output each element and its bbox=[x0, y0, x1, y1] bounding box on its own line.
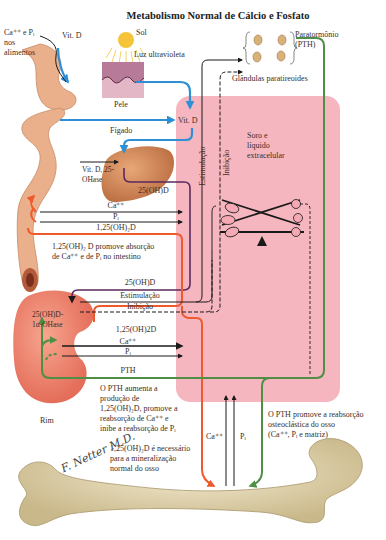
intestine-note-line1: 1,25(OH)₂ D promove absorção bbox=[52, 242, 154, 252]
kidney-calcitriol-label: 1,25(OH)2D bbox=[100, 325, 172, 335]
ecf-vitd-label: Vit. D bbox=[178, 116, 198, 126]
bone-pi-label: Pᵢ bbox=[240, 432, 246, 442]
kidney-note-line3: 1,25(OH)₂D, promove a bbox=[100, 404, 177, 414]
liver-25ohd-label: 25(OH)D bbox=[138, 186, 169, 196]
kidney-note: O PTH aumenta a produção de 1,25(OH)₂D, … bbox=[100, 384, 177, 434]
bone-min-note-line2: para a mineralização bbox=[110, 454, 190, 464]
kidney-pi-label: Pᵢ bbox=[108, 347, 148, 357]
kidney-enzyme-line1: 25(OH)D- bbox=[32, 310, 63, 320]
liver-enzyme-line2: OHase bbox=[82, 175, 114, 185]
bone-ca-label: Ca⁺⁺ bbox=[206, 432, 223, 442]
intestine-pi-label: Pᵢ bbox=[96, 212, 136, 222]
uv-label: Luz ultravioleta bbox=[134, 50, 185, 60]
intestine-calcitriol-label: 1,25(OH)₂D bbox=[80, 223, 152, 233]
ecf-label-line1: Soro e bbox=[247, 131, 285, 141]
sun-label: Sol bbox=[136, 28, 147, 38]
inhibition-vertical-label: Inibição bbox=[222, 150, 232, 176]
diet-label-line2: nos bbox=[4, 38, 35, 48]
diet-label: Ca⁺⁺ e Pᵢ nos alimentos bbox=[4, 28, 35, 58]
pth-label-line2: (PTH) bbox=[295, 40, 339, 50]
skin-label: Pele bbox=[114, 100, 128, 110]
kidney-note-line1: O PTH aumenta a bbox=[100, 384, 177, 394]
ecf-label: Soro e líquido extracelular bbox=[247, 131, 285, 161]
diet-label-line3: alimentos bbox=[4, 48, 35, 58]
kidney-note-line2: produção de bbox=[100, 394, 177, 404]
liver-label: Fígado bbox=[110, 126, 132, 136]
kidney-icon bbox=[13, 290, 93, 403]
kidney-enzyme-line2: 1α-OHase bbox=[32, 320, 63, 330]
ecf-label-line3: extracelular bbox=[247, 151, 285, 161]
bone-pth-note: O PTH promove a reabsorção osteoclástica… bbox=[268, 410, 364, 440]
kidney-note-line4: reabsorção de Ca⁺⁺ e bbox=[100, 414, 177, 424]
bone-pth-note-line3: (Ca⁺⁺, Pᵢ e matriz) bbox=[268, 430, 364, 440]
vitd-oral-label: Vit. D bbox=[62, 31, 82, 41]
kidney-stim-label: Estimulação bbox=[108, 291, 172, 301]
bone-pth-note-line1: O PTH promove a reabsorção bbox=[268, 410, 364, 420]
page-title: Metabolismo Normal de Cálcio e Fosfato bbox=[0, 10, 386, 21]
kidney-inhib-label: Inibição bbox=[108, 302, 172, 312]
skin-icon bbox=[102, 62, 144, 98]
parathyroid-label: Glândulas paratireoides bbox=[232, 74, 308, 84]
kidney-25ohd-label: 25(OH)D bbox=[110, 278, 170, 288]
bone-min-note-line3: normal do osso bbox=[110, 464, 190, 474]
kidney-enzyme-label: 25(OH)D- 1α-OHase bbox=[32, 310, 63, 329]
bone-pth-note-line2: osteoclástica do osso bbox=[268, 420, 364, 430]
liver-enzyme-line1: Vit. D, 25- bbox=[82, 165, 114, 175]
diet-label-line1: Ca⁺⁺ e Pᵢ bbox=[4, 28, 35, 38]
ecf-label-line2: líquido bbox=[247, 141, 285, 151]
intestine-note-line2: de Ca⁺⁺ e de Pᵢ no intestino bbox=[52, 252, 154, 262]
bone-min-note: 1,25(OH)₂D é necessário para a mineraliz… bbox=[110, 444, 190, 474]
bone-icon bbox=[19, 439, 363, 526]
pth-label-line1: Paratormônio bbox=[295, 30, 339, 40]
kidney-note-line5: inibe a reabsorção de Pᵢ bbox=[100, 424, 177, 434]
kidney-pth-label: PTH bbox=[108, 366, 148, 376]
kidney-ca-label: Ca⁺⁺ bbox=[108, 337, 148, 347]
parathyroid-glands-icon bbox=[253, 35, 286, 62]
kidney-label: Rim bbox=[40, 416, 54, 426]
diagram-graphics bbox=[0, 0, 386, 540]
liver-enzyme-label: Vit. D, 25- OHase bbox=[82, 165, 114, 184]
intestine-ca-label: Ca⁺⁺ bbox=[96, 201, 136, 211]
stimulation-vertical-label: Estimulação bbox=[198, 146, 208, 186]
intestine-note: 1,25(OH)₂ D promove absorção de Ca⁺⁺ e d… bbox=[52, 242, 154, 262]
